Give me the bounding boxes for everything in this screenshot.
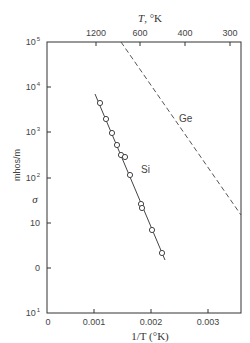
y-tick-1e4: 104 [26,81,41,92]
si-point [103,116,108,121]
y-tick-1e2: 102 [26,172,41,183]
top-tick-1200: 1200 [86,28,106,38]
si-point [127,172,132,177]
bottom-tick-0003: 0.003 [197,317,220,327]
bottom-tick-0: 0 [45,317,50,327]
si-point [114,142,119,147]
si-label: Si [141,164,150,175]
si-point [149,227,154,232]
top-axis-title: T, °K [138,12,162,24]
si-point [97,100,102,105]
top-axis-ticks [96,42,230,46]
bottom-axis-labels: 0 0.001 0.002 0.003 [45,317,219,327]
y-tick-1e1: 101 [26,307,41,318]
y-axis-symbol: σ [32,193,38,205]
y-tick-1e3: 103 [26,126,41,137]
plot-frame [47,42,241,313]
top-tick-600: 600 [132,28,147,38]
bottom-tick-0002: 0.002 [140,317,163,327]
si-point [122,154,127,159]
si-point [159,250,164,255]
bottom-axis-ticks [94,309,208,313]
ge-label: Ge [179,113,193,124]
bottom-tick-0001: 0.001 [83,317,106,327]
si-point [139,205,144,210]
top-tick-300: 300 [222,28,237,38]
top-tick-400: 400 [177,28,192,38]
y-axis-title: mhos/m [12,149,22,181]
top-axis-labels: 1200 600 400 300 [86,28,238,38]
y-tick-10: 10 [30,218,40,228]
left-axis-ticks [47,87,51,268]
si-point [109,130,114,135]
y-tick-1e5: 105 [26,36,41,47]
conductivity-chart: 1200 600 400 300 T, °K 0 0.001 0.002 0.0… [0,0,250,343]
bottom-axis-title: 1/T (°K) [131,330,169,343]
ge-series-line [121,42,241,215]
left-axis-labels: 105 104 103 102 10 0 101 [26,36,41,318]
y-tick-0: 0 [35,263,40,273]
